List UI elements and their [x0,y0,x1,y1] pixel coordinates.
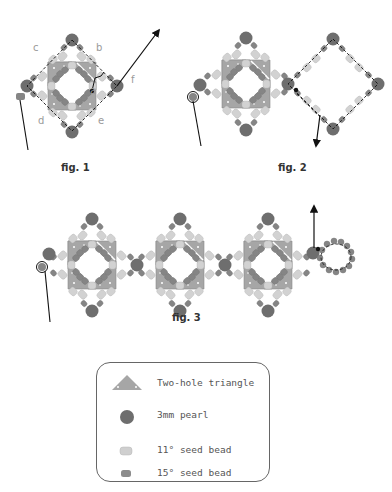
direction-arrow-icon [117,30,159,86]
legend-item-triangle: Two-hole triangle [97,373,269,393]
seed-bead-15-icon [120,469,132,478]
seed-bead-11-icon [119,446,133,456]
figure-2-caption: fig. 2 [278,162,307,173]
step-label-d: d [38,115,44,126]
thread-tail [20,100,28,150]
start-point-icon [294,88,298,92]
legend-item-seed-15: 15° seed bead [97,467,269,487]
step-label-a: a [90,85,96,96]
legend-item-seed-11: 11° seed bead [97,444,269,464]
pearl-icon [119,409,135,425]
figure-3-caption: fig. 3 [172,312,201,323]
legend-label: 15° seed bead [157,467,231,478]
step-label-c: c [33,42,39,53]
pearl-icon [43,248,56,261]
step-label-f: f [131,74,135,85]
figure-1-caption: fig. 1 [61,162,90,173]
seed-bead-15-icon [16,93,25,100]
legend-label: 11° seed bead [157,444,231,455]
direction-arrow-icon [316,115,320,146]
thread-tail [193,101,201,146]
step-label-b: b [96,42,102,53]
thread-tail [45,271,50,322]
figure-3-diagram [37,206,356,322]
seed-bead-ring [317,238,355,275]
legend-item-pearl: 3mm pearl [97,409,269,429]
pearl-icon [194,79,207,92]
legend-label: Two-hole triangle [157,377,254,388]
legend-label: 3mm pearl [157,409,208,420]
step-label-e: e [98,115,104,126]
legend-box: Two-hole triangle 3mm pearl 11° seed bea… [96,362,270,482]
two-hole-triangle-icon [111,374,143,391]
figure-2-diagram [188,32,385,147]
